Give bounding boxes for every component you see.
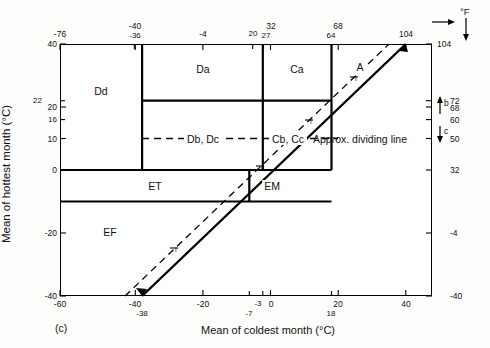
left-tick-label: 10 bbox=[48, 134, 57, 143]
b-c-range-arrows bbox=[437, 96, 443, 143]
right-tick-label: 32 bbox=[450, 166, 459, 175]
diagonal-tick-label-i: i bbox=[310, 118, 312, 126]
right-axis-title: °F bbox=[460, 6, 470, 17]
region-label-et: ET bbox=[146, 180, 163, 192]
right-tick-label: -4 bbox=[450, 229, 458, 238]
degf-arrows bbox=[432, 18, 469, 41]
top-tick-sublabel: 20 bbox=[249, 30, 258, 38]
right-tick-label: 50 bbox=[450, 134, 459, 143]
left-tick-label: 40 bbox=[48, 40, 57, 49]
bottom-tick-sublabel: -3 bbox=[254, 300, 261, 308]
bottom-tick-label: -60 bbox=[54, 300, 66, 309]
bottom-tick-label: 40 bbox=[401, 300, 410, 309]
top-tick-label: -40 bbox=[129, 22, 141, 31]
top-tick-label: 104 bbox=[399, 30, 413, 39]
left-tick-label: 0 bbox=[52, 166, 57, 175]
figure-root: -76 -40 -4 32 68 104 -36 20 27 64 40 20 … bbox=[0, 0, 490, 348]
diagonal-tick-label-i: i bbox=[355, 75, 357, 83]
figure-caption: (c) bbox=[55, 322, 67, 334]
region-label-dd: Dd bbox=[92, 85, 109, 97]
right-tick-label: -40 bbox=[450, 292, 462, 301]
bottom-tick-sublabel: -38 bbox=[136, 310, 148, 318]
left-tick-label: -20 bbox=[45, 229, 57, 238]
c-range-label: c bbox=[444, 126, 448, 136]
top-tick-label: -4 bbox=[199, 30, 207, 39]
bottom-tick-label: 0 bbox=[269, 300, 274, 309]
right-tick-label: 68 bbox=[450, 104, 459, 113]
top-tick-sublabel: 27 bbox=[262, 32, 271, 40]
bottom-tick-label: -40 bbox=[129, 300, 141, 309]
region-label-da: Da bbox=[194, 63, 211, 75]
top-tick-sublabel: -36 bbox=[129, 32, 141, 40]
region-label-db-dc: Db, Dc bbox=[184, 133, 222, 145]
top-tick-sublabel: 64 bbox=[327, 32, 336, 40]
bottom-tick-label: -20 bbox=[197, 300, 209, 309]
b-range-label: b bbox=[444, 98, 449, 108]
y-axis-title: Mean of hottest month (°C) bbox=[0, 105, 12, 243]
left-tick-sublabel: 22 bbox=[33, 97, 42, 105]
approx-dividing-line-annotation: Approx. dividing line bbox=[313, 133, 407, 145]
diagonal-tick-label-i: i bbox=[261, 164, 263, 172]
top-tick-label: 32 bbox=[266, 22, 275, 31]
left-tick-label: 20 bbox=[48, 103, 57, 112]
right-tick-label: 60 bbox=[450, 115, 459, 124]
x-axis-title: Mean of coldest month (°C) bbox=[201, 325, 335, 336]
diagonal-tick-label-i: i bbox=[175, 246, 177, 254]
bottom-tick-sublabel: 18 bbox=[327, 310, 336, 318]
bottom-tick-label: 20 bbox=[333, 300, 342, 309]
region-label-ef: EF bbox=[101, 226, 118, 238]
region-label-em: EM bbox=[262, 180, 282, 192]
plot-frame bbox=[60, 44, 432, 296]
region-label-ca: Ca bbox=[288, 63, 305, 75]
region-label-a: A bbox=[354, 61, 365, 73]
bottom-tick-sublabel: -7 bbox=[245, 310, 252, 318]
right-tick-label: 104 bbox=[437, 40, 451, 49]
region-label-cb-cc: Cb, Cc bbox=[269, 133, 307, 145]
top-tick-label: 68 bbox=[333, 22, 342, 31]
top-tick-label: -76 bbox=[54, 30, 66, 39]
left-tick-sublabel: 16 bbox=[48, 116, 57, 124]
